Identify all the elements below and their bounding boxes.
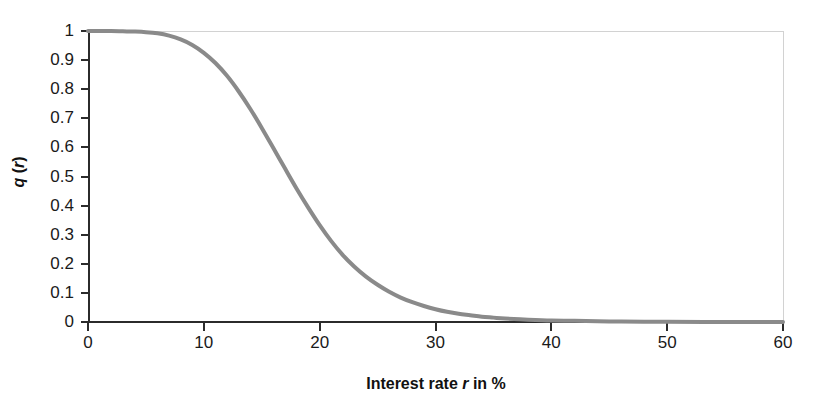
y-axis-title: q (r) <box>10 117 28 227</box>
y-axis-title-variable: r <box>10 162 27 168</box>
chart-figure: 00.10.20.30.40.50.60.70.80.91 0102030405… <box>0 0 819 419</box>
y-axis-title-open: ( <box>10 168 27 178</box>
x-axis-title-post: in % <box>468 375 505 392</box>
y-axis-title-close: ) <box>10 156 27 161</box>
series-line-q-of-r <box>88 31 783 322</box>
x-axis-title: Interest rate r in % <box>88 375 784 393</box>
y-axis-title-q: q <box>10 178 27 188</box>
x-axis-title-pre: Interest rate <box>366 375 462 392</box>
data-curve-layer <box>0 0 819 419</box>
